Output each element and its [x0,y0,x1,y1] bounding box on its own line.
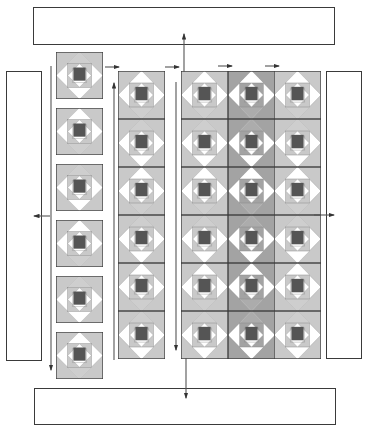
grid-block [181,311,228,359]
quilt-block [56,332,103,379]
strip-block [118,215,165,263]
quilt-block [56,220,103,267]
quilt-block [56,108,103,155]
grid-block [181,71,228,119]
grid-block [228,71,275,119]
grid-block [274,119,321,167]
grid-block [228,167,275,215]
strip-block [118,119,165,167]
quilt-block [56,164,103,211]
right-border-panel [326,71,362,359]
left-border-panel [6,71,42,361]
grid-block [181,263,228,311]
strip-block [118,167,165,215]
top-border-panel [33,7,335,45]
grid-block [228,215,275,263]
strip-block [118,311,165,359]
grid-block [181,119,228,167]
grid-block [228,311,275,359]
grid-block [228,119,275,167]
grid-block [274,167,321,215]
strip-block [118,71,165,119]
grid-block [181,167,228,215]
grid-block [274,71,321,119]
grid-block [274,215,321,263]
strip-block [118,263,165,311]
grid-block [181,215,228,263]
bottom-border-panel [34,388,336,425]
quilt-block [56,276,103,323]
grid-block [274,263,321,311]
grid-block [228,263,275,311]
grid-block [274,311,321,359]
quilt-block [56,52,103,99]
